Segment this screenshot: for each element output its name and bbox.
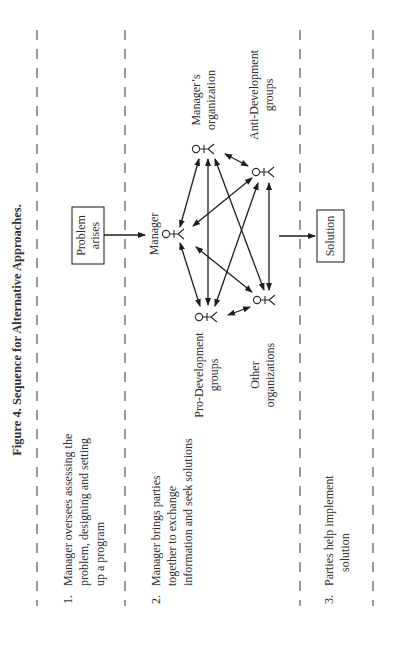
step-1-line-1: Manager oversees assessing the bbox=[61, 434, 75, 586]
solution-box-label: Solution bbox=[323, 216, 337, 257]
problem-box: Problem arises bbox=[72, 207, 104, 264]
step-3-line-2: solution bbox=[338, 533, 352, 572]
anti-dev-label: Anti-Development groups bbox=[247, 49, 276, 140]
solution-box: Solution bbox=[317, 210, 344, 262]
pro-dev-label: Pro-Development groups bbox=[192, 332, 221, 418]
figure-title: Figure 4. Sequence for Alternative Appro… bbox=[10, 204, 24, 456]
step-1-line-2: problem, designing and setting bbox=[77, 438, 91, 586]
svg-text:groups: groups bbox=[207, 358, 221, 391]
step-3-number: 3. bbox=[322, 595, 336, 604]
step-3-line-1: Parties help implement bbox=[322, 475, 336, 586]
step-1-line-3: up a program bbox=[93, 521, 107, 586]
managers-org-figure-icon bbox=[192, 144, 214, 154]
pro-dev-figure-icon bbox=[195, 312, 217, 322]
step-1: 1. Manager oversees assessing the proble… bbox=[61, 434, 107, 604]
step-2: 2. Manager brings parties together to ex… bbox=[149, 438, 195, 604]
step-2-line-1: Manager brings parties bbox=[149, 475, 163, 586]
svg-text:Pro-Development: Pro-Development bbox=[192, 332, 206, 418]
other-orgs-figure-icon bbox=[253, 295, 275, 305]
anti-dev-figure-icon bbox=[252, 167, 274, 177]
manager-label: Manager bbox=[147, 213, 161, 256]
step-3: 3. Parties help implement solution bbox=[322, 475, 352, 604]
problem-box-line-2: arises bbox=[88, 222, 102, 250]
svg-text:Other: Other bbox=[248, 361, 262, 388]
svg-text:groups: groups bbox=[262, 78, 276, 111]
svg-text:organization: organization bbox=[204, 70, 218, 130]
other-orgs-label: Other organizations bbox=[248, 342, 277, 407]
connection-arrows bbox=[180, 154, 269, 315]
problem-box-line-1: Problem bbox=[74, 215, 88, 256]
svg-text:Manager’s: Manager’s bbox=[189, 74, 203, 125]
managers-org-label: Manager’s organization bbox=[189, 70, 218, 130]
svg-text:Anti-Development: Anti-Development bbox=[247, 49, 261, 140]
step-2-number: 2. bbox=[149, 595, 163, 604]
step-1-number: 1. bbox=[61, 595, 75, 604]
svg-text:organizations: organizations bbox=[263, 342, 277, 407]
manager-figure-icon bbox=[162, 229, 184, 239]
diagram-canvas: Figure 4. Sequence for Alternative Appro… bbox=[0, 0, 400, 660]
step-2-line-2: together to exchange bbox=[165, 486, 179, 586]
step-2-line-3: information and seek solutions bbox=[181, 438, 195, 586]
